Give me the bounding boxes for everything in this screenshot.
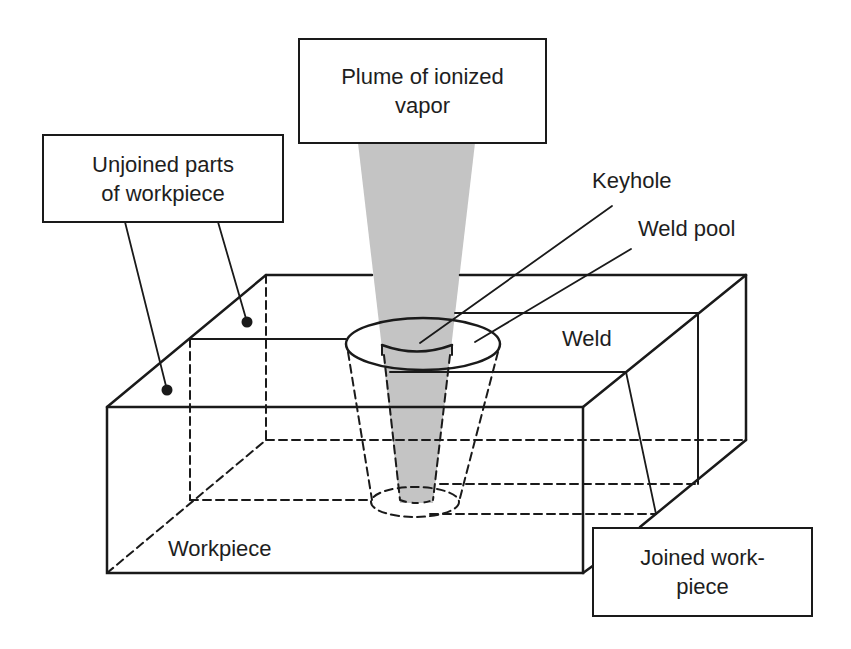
unjoined-label-line2: of workpiece xyxy=(101,179,225,208)
leader-unjoined-2 xyxy=(218,222,247,322)
unjoined-dot-1 xyxy=(162,385,173,396)
unjoined-dot-2 xyxy=(242,317,253,328)
weld-pool-label: Weld pool xyxy=(638,217,735,241)
unjoined-label-box: Unjoined parts of workpiece xyxy=(42,134,284,223)
unjoined-label-line1: Unjoined parts xyxy=(92,150,234,179)
plume-label-box: Plume of ionized vapor xyxy=(298,38,547,144)
leader-unjoined-1 xyxy=(125,222,167,390)
leader-joined xyxy=(626,372,656,514)
plume-label-line1: Plume of ionized xyxy=(341,62,504,91)
joined-label-line1: Joined work- xyxy=(640,543,765,572)
keyhole-label: Keyhole xyxy=(592,169,672,193)
joined-label-line2: piece xyxy=(676,572,729,601)
weld-label: Weld xyxy=(562,327,612,351)
plume-label-line2: vapor xyxy=(395,91,450,120)
joined-label-box: Joined work- piece xyxy=(592,527,813,617)
workpiece-label: Workpiece xyxy=(168,537,272,561)
